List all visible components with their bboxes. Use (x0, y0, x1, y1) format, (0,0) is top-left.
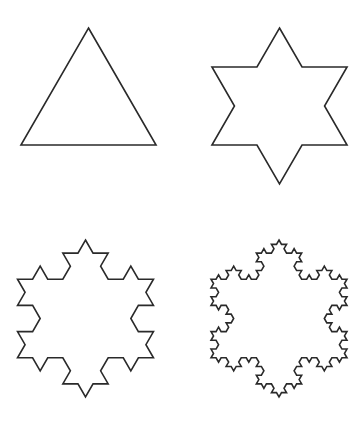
background (0, 0, 364, 422)
koch-snowflake-diagram (0, 0, 364, 422)
diagram-canvas (0, 0, 364, 422)
